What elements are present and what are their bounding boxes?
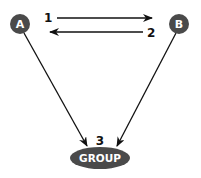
node-b-label: B bbox=[175, 18, 183, 31]
diagram-canvas: 1 2 A B 3 GROUP bbox=[0, 0, 201, 178]
node-a-label: A bbox=[16, 18, 25, 31]
group-step-label: 3 bbox=[96, 134, 104, 148]
edge-label-1: 1 bbox=[44, 11, 52, 25]
edge-a-to-group bbox=[24, 33, 87, 146]
edge-b-to-group bbox=[117, 33, 176, 146]
node-a: A bbox=[10, 14, 30, 34]
node-b: B bbox=[169, 14, 189, 34]
node-group: GROUP bbox=[70, 147, 130, 169]
node-group-label: GROUP bbox=[79, 152, 121, 164]
edge-label-2: 2 bbox=[147, 26, 155, 40]
